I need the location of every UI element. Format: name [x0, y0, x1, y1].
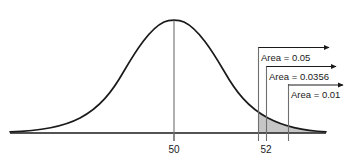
normal-curve-figure: Area = 0.05 Area = 0.0356 Area = 0.01 50… — [0, 0, 361, 163]
x-tick-label-52: 52 — [260, 144, 272, 155]
annotation-label-area-001: Area = 0.01 — [291, 89, 340, 100]
x-tick-label-50: 50 — [168, 144, 180, 155]
annotation-label-area-005: Area = 0.05 — [261, 52, 310, 63]
annotation-label-area-00356: Area = 0.0356 — [269, 71, 329, 82]
distribution-chart-svg: Area = 0.05 Area = 0.0356 Area = 0.01 50… — [0, 0, 361, 163]
